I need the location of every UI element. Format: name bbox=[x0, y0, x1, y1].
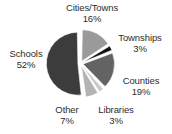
pie-label-schools: Schools 52% bbox=[2, 49, 50, 70]
pie-label-cities-towns: Cities/Towns 16% bbox=[56, 3, 128, 24]
pie-chart: Cities/Towns 16% Townships 3% Counties 1… bbox=[0, 0, 172, 134]
pie-label-cities-towns-value: 16% bbox=[56, 14, 128, 25]
pie-label-counties: Counties 19% bbox=[112, 76, 170, 97]
pie-label-townships-name: Townships bbox=[108, 33, 172, 44]
pie-label-counties-name: Counties bbox=[112, 76, 170, 87]
pie-slice-schools bbox=[46, 32, 81, 95]
pie-label-counties-value: 19% bbox=[112, 87, 170, 98]
pie-slice-group bbox=[46, 30, 114, 97]
pie-label-other-name: Other bbox=[48, 105, 86, 116]
pie-label-schools-value: 52% bbox=[2, 60, 50, 71]
pie-label-libraries-value: 3% bbox=[90, 116, 142, 127]
pie-label-cities-towns-name: Cities/Towns bbox=[56, 3, 128, 14]
pie-label-schools-name: Schools bbox=[2, 49, 50, 60]
pie-label-townships-value: 3% bbox=[108, 44, 172, 55]
pie-label-libraries-name: Libraries bbox=[90, 105, 142, 116]
pie-label-townships: Townships 3% bbox=[108, 33, 172, 54]
pie-label-other: Other 7% bbox=[48, 105, 86, 126]
pie-label-other-value: 7% bbox=[48, 116, 86, 127]
pie-label-libraries: Libraries 3% bbox=[90, 105, 142, 126]
